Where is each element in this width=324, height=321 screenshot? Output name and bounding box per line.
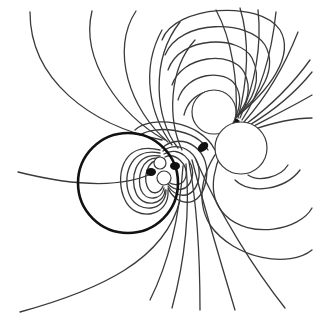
small-dipole-junction-left (146, 168, 156, 176)
upper-left-field-lines (30, 11, 195, 150)
field-line-diagram (0, 0, 324, 321)
large-pole-lower (215, 122, 267, 174)
small-dipole-junction-right (170, 162, 180, 170)
field-lines-canvas (0, 0, 324, 321)
saddle-junction (196, 140, 210, 154)
lower-field-lines (18, 160, 285, 312)
small-pole-lower (157, 171, 171, 185)
small-dipole-loops (121, 122, 215, 214)
small-pole-upper (154, 157, 166, 169)
